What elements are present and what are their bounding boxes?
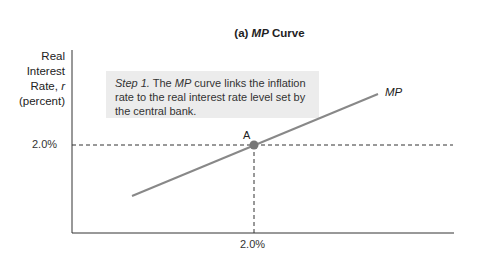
x-tick-label: 2.0% [240, 238, 265, 250]
point-a [250, 141, 259, 150]
y-tick-label: 2.0% [32, 138, 57, 150]
mp-curve-label: MP [385, 86, 402, 98]
chart-plot [0, 0, 479, 258]
point-a-label: A [243, 129, 250, 141]
